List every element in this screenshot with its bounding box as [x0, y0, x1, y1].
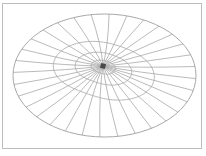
mesh-spoke: [91, 15, 103, 66]
mesh-spoke: [103, 66, 193, 91]
mesh-spoke: [103, 14, 109, 66]
mesh-spoke: [65, 66, 103, 131]
mesh-spoke: [103, 66, 152, 128]
mesh-spoke: [100, 66, 103, 137]
radial-mesh-diagram: [0, 0, 206, 156]
mesh-spoke: [103, 16, 127, 66]
mesh-spoke: [18, 66, 103, 96]
mesh-spoke: [14, 66, 103, 85]
mesh-spoke: [103, 66, 178, 112]
mesh-spoke: [103, 66, 187, 102]
mesh-spoke: [58, 23, 104, 66]
mesh-spoke: [103, 66, 195, 67]
mesh-spoke: [103, 26, 159, 66]
mesh-spoke: [50, 66, 103, 125]
